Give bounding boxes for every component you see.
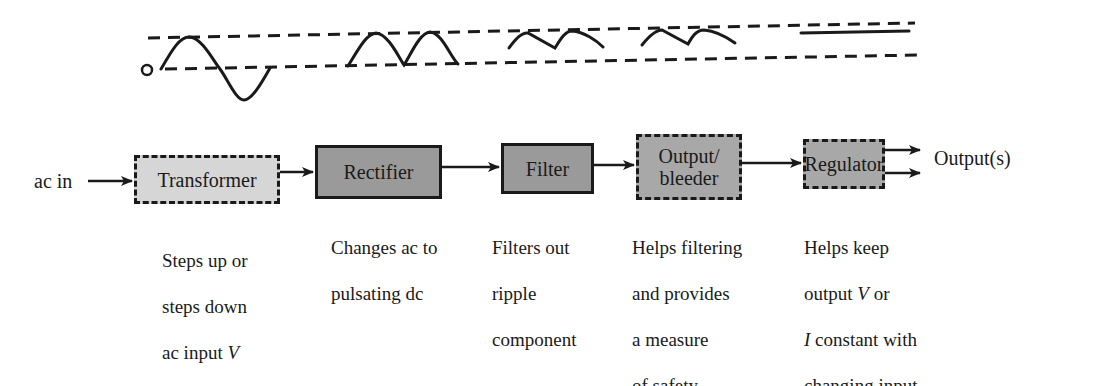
desc-text: ac input bbox=[162, 342, 227, 363]
desc-line: I constant with bbox=[804, 328, 917, 351]
desc-line: ac input V bbox=[162, 341, 248, 364]
desc-line: of safety bbox=[632, 374, 742, 386]
filter-description: Filters out ripple component bbox=[492, 213, 576, 374]
desc-text: output bbox=[804, 283, 857, 304]
desc-line: component bbox=[492, 328, 576, 351]
rectifier-description: Changes ac to pulsating dc bbox=[331, 213, 438, 328]
desc-line: steps down bbox=[162, 295, 248, 318]
output-bleeder-block: Output/ bleeder bbox=[636, 134, 742, 200]
transformer-block: Transformer bbox=[134, 155, 280, 204]
desc-text: or bbox=[869, 283, 890, 304]
filter-block: Filter bbox=[501, 143, 594, 194]
rectifier-block: Rectifier bbox=[315, 145, 442, 199]
desc-line: Changes ac to bbox=[331, 236, 438, 259]
desc-line: and provides bbox=[632, 282, 742, 305]
rectifier-block-label: Rectifier bbox=[344, 161, 414, 183]
voltage-symbol: V bbox=[227, 342, 239, 363]
desc-line: Helps filtering bbox=[632, 236, 742, 259]
outputs-label: Output(s) bbox=[934, 147, 1011, 169]
desc-line: a measure bbox=[632, 328, 742, 351]
desc-line: pulsating dc bbox=[331, 282, 438, 305]
filter-block-label: Filter bbox=[526, 158, 569, 180]
regulator-block-label: Regulator bbox=[805, 153, 884, 175]
voltage-symbol: V bbox=[857, 283, 869, 304]
desc-line: output V or bbox=[804, 282, 917, 305]
desc-text: constant with bbox=[810, 329, 917, 350]
regulator-block: Regulator bbox=[803, 139, 885, 189]
transformer-description: Steps up or steps down ac input V bbox=[162, 226, 248, 386]
desc-line: Steps up or bbox=[162, 249, 248, 272]
output-bleeder-label-line1: Output/ bbox=[658, 145, 719, 167]
ac-in-label: ac in bbox=[34, 170, 72, 192]
regulator-description: Helps keep output V or I constant with c… bbox=[804, 213, 917, 386]
output-bleeder-description: Helps filtering and provides a measure o… bbox=[632, 213, 742, 386]
desc-line: Filters out bbox=[492, 236, 576, 259]
output-bleeder-label-line2: bleeder bbox=[660, 167, 719, 189]
transformer-block-label: Transformer bbox=[157, 169, 256, 191]
desc-line: ripple bbox=[492, 282, 576, 305]
desc-line: Helps keep bbox=[804, 236, 917, 259]
desc-line: changing input bbox=[804, 374, 917, 386]
